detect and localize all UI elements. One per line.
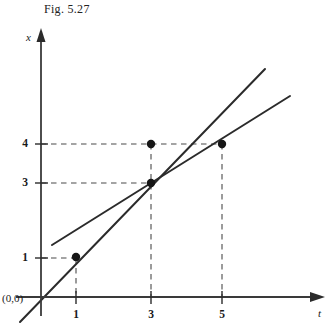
y-axis-arrowhead (37, 28, 46, 42)
xtick-label-5: 5 (215, 308, 229, 320)
ytick-label-1: 1 (14, 251, 28, 263)
dashed-guides (41, 144, 222, 297)
xtick-label-1: 1 (69, 308, 83, 320)
axes-group (16, 28, 325, 316)
shallow-line (52, 96, 290, 245)
y-axis-label: x (26, 31, 31, 43)
data-point-3-3 (147, 179, 155, 187)
steep-line (20, 69, 265, 322)
xtick-label-3: 3 (144, 308, 158, 320)
x-axis-arrowhead (310, 292, 325, 302)
data-point-5-4 (218, 140, 226, 148)
origin-label: (0,0) (2, 292, 23, 304)
ytick-label-4: 4 (14, 137, 28, 149)
ytick-label-3: 3 (14, 176, 28, 188)
data-point-1-1 (72, 253, 80, 261)
plot-canvas (0, 0, 333, 332)
x-axis-label: t (318, 307, 321, 319)
tick-marks (35, 144, 222, 304)
data-point-3-4 (147, 140, 155, 148)
data-lines (20, 69, 290, 322)
data-points (72, 140, 226, 261)
figure-container: Fig. 5.27 (0, 0, 333, 332)
